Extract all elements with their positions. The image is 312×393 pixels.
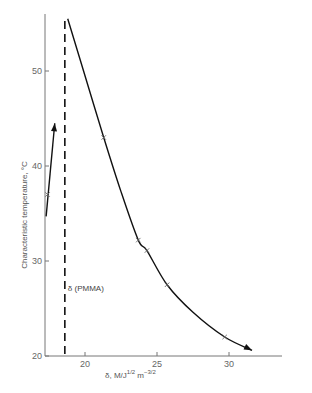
short-arrow-line (46, 123, 55, 216)
arrowhead-icon (244, 344, 253, 350)
x-tick-label: 25 (152, 359, 162, 369)
axis-labels: Characteristic temperature, °Cδ, M/J1/2 … (20, 161, 157, 380)
y-tick-label: 40 (32, 161, 42, 171)
x-tick-label: 30 (224, 359, 234, 369)
y-axis-label: Characteristic temperature, °C (20, 161, 29, 269)
pmma-label: δ (PMMA) (68, 284, 104, 293)
x-axis: 202530 (45, 352, 282, 369)
y-tick-label: 30 (32, 256, 42, 266)
x-axis-label: δ, M/J1/2 m−3/2 (105, 369, 157, 380)
reference-line-pmma: δ (PMMA) (65, 21, 104, 356)
y-axis: 20304050 (32, 14, 49, 361)
x-tick-label: 20 (80, 359, 90, 369)
y-tick-label: 50 (32, 66, 42, 76)
y-tick-label: 20 (32, 351, 42, 361)
main-curve (68, 19, 252, 351)
chart: 20304050 202530 δ (PMMA) Characteristic … (0, 0, 312, 393)
data-series (45, 19, 252, 351)
